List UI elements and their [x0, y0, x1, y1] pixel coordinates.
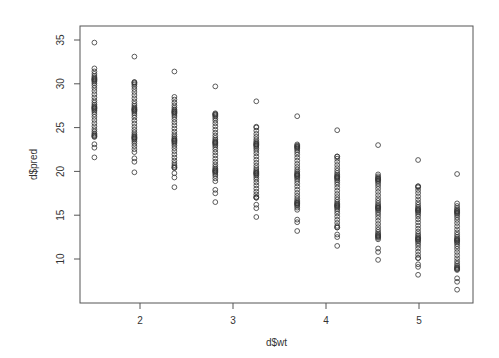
y-tick-label: 15	[55, 209, 66, 221]
data-point	[92, 145, 97, 150]
data-point	[335, 128, 340, 133]
data-point	[132, 159, 137, 164]
data-point	[254, 215, 259, 220]
data-point	[213, 179, 218, 184]
y-tick-label: 35	[55, 34, 66, 46]
data-point	[213, 200, 218, 205]
plot-frame	[80, 26, 473, 303]
data-point	[132, 150, 137, 155]
scatter-chart: 2345 101520253035 d$wt d$pred	[0, 0, 499, 358]
data-point	[376, 250, 381, 255]
data-point	[172, 69, 177, 74]
data-point	[455, 279, 460, 284]
y-tick-label: 30	[55, 78, 66, 90]
data-point	[172, 185, 177, 190]
data-point	[335, 244, 340, 249]
y-tick-label: 20	[55, 165, 66, 177]
data-point	[254, 99, 259, 104]
y-axis-title: d$pred	[28, 149, 39, 180]
data-point	[376, 258, 381, 263]
x-axis: 2345	[137, 303, 422, 326]
x-axis-title: d$wt	[266, 337, 287, 348]
data-points	[92, 40, 460, 292]
y-tick-label: 25	[55, 122, 66, 134]
data-point	[455, 287, 460, 292]
x-tick-label: 5	[416, 315, 422, 326]
x-tick-label: 2	[137, 315, 143, 326]
x-tick-label: 3	[230, 315, 236, 326]
y-axis: 101520253035	[55, 34, 80, 265]
data-point	[213, 84, 218, 89]
data-point	[295, 229, 300, 234]
data-point	[416, 256, 421, 261]
data-point	[295, 114, 300, 119]
data-point	[213, 191, 218, 196]
data-point	[132, 170, 137, 175]
data-point	[132, 54, 137, 59]
data-point	[416, 272, 421, 277]
data-point	[92, 155, 97, 160]
data-point	[416, 158, 421, 163]
data-point	[455, 172, 460, 177]
data-point	[376, 143, 381, 148]
y-tick-label: 10	[55, 253, 66, 265]
data-point	[92, 40, 97, 45]
data-point	[254, 206, 259, 211]
x-tick-label: 4	[323, 315, 329, 326]
